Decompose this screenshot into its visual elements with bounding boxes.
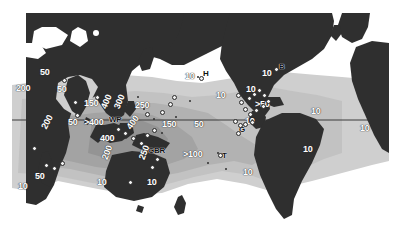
reef-site-marker: [73, 100, 78, 105]
reef-site-marker: [145, 112, 150, 117]
reef-site-marker: [199, 76, 204, 81]
reef-site-marker: [152, 128, 157, 133]
reef-site-marker: [128, 180, 133, 185]
site-label-b: B: [279, 63, 285, 71]
contour-label: 10: [97, 178, 107, 187]
contour-label: 10: [185, 72, 195, 81]
contour-label: 250: [135, 101, 149, 110]
reef-site-marker: [168, 102, 173, 107]
reef-site-marker: [250, 120, 255, 125]
reef-site-marker: [262, 93, 267, 98]
contour-label: 10: [303, 145, 313, 154]
reef-site-marker: [218, 153, 223, 158]
site-label-wp: WP: [109, 116, 122, 124]
reef-site-marker: [32, 146, 37, 151]
contour-label: 150: [84, 99, 98, 108]
reef-site-marker: [123, 131, 128, 136]
contour-label: 10: [18, 182, 28, 191]
reef-site-marker: [243, 107, 248, 112]
reef-site-marker: [247, 96, 252, 101]
reef-site-marker: [252, 92, 257, 97]
reef-site-marker: [60, 161, 65, 166]
contour-label: 50: [57, 85, 67, 94]
polar-cutout-north3: [93, 30, 99, 36]
figure-root: 502005050200150>400400300250400400150502…: [0, 0, 399, 236]
contour-label: 50: [194, 120, 204, 129]
reef-site-marker: [236, 131, 241, 136]
site-label-gbr: GBR: [148, 147, 165, 155]
contour-label: 50: [35, 172, 45, 181]
contour-label: 10: [216, 91, 226, 100]
reef-site-marker: [150, 165, 155, 170]
world-map: 502005050200150>400400300250400400150502…: [12, 13, 389, 226]
reef-site-marker: [116, 127, 121, 132]
contour-label: 50: [40, 68, 50, 77]
contour-label: >400: [84, 118, 103, 127]
contour-label: 10: [262, 69, 272, 78]
contour-label: 400: [100, 134, 114, 143]
reef-site-marker: [52, 166, 57, 171]
reef-site-marker: [243, 122, 248, 127]
reef-site-marker: [62, 78, 67, 83]
reef-site-marker: [248, 112, 253, 117]
reef-site-marker: [261, 104, 266, 109]
contour-label: >100: [183, 150, 202, 159]
reef-site-marker: [172, 95, 177, 100]
contour-label: 50: [68, 118, 78, 127]
reef-site-marker: [131, 136, 136, 141]
reef-site-marker: [274, 67, 279, 72]
reef-site-marker: [254, 108, 259, 113]
reef-site-marker: [145, 133, 150, 138]
reef-site-marker: [155, 157, 160, 162]
reef-site-marker: [233, 119, 238, 124]
reef-site-marker: [139, 141, 144, 146]
contour-label: 200: [16, 84, 30, 93]
reef-site-marker: [236, 93, 241, 98]
contour-label: 10: [147, 178, 157, 187]
reef-site-marker: [239, 100, 244, 105]
contour-label: 150: [162, 120, 176, 129]
reef-site-marker: [266, 99, 271, 104]
reef-site-marker: [160, 110, 165, 115]
reef-site-marker: [257, 88, 262, 93]
contour-label: 10: [243, 168, 253, 177]
contour-label: 10: [360, 124, 370, 133]
reef-site-marker: [44, 163, 49, 168]
contour-label: 10: [311, 107, 321, 116]
reef-site-marker: [75, 113, 80, 118]
reef-site-marker: [95, 95, 100, 100]
